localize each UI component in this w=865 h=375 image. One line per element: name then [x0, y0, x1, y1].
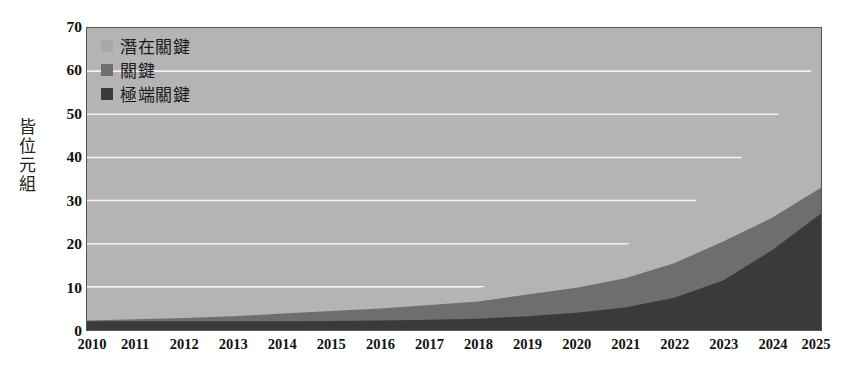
legend-swatch-icon [101, 64, 113, 76]
y-axis-tick-label: 60 [46, 61, 82, 79]
x-axis-tick-label: 2019 [513, 336, 542, 353]
plot-inner [87, 28, 821, 330]
x-axis-tick-label: 2017 [415, 336, 444, 353]
x-axis-tick-label: 2013 [219, 336, 248, 353]
x-axis-tick-label: 2023 [709, 336, 738, 353]
legend-swatch-icon [101, 40, 113, 52]
legend-item[interactable]: 極端關鍵 [101, 82, 190, 105]
legend-item[interactable]: 潛在關鍵 [101, 34, 190, 57]
x-axis-tick-labels: 2010201120122013201420152016201720182019… [86, 336, 822, 362]
y-axis-tick-labels: 706050403020100 [42, 0, 82, 375]
x-axis-tick-label: 2025 [802, 336, 831, 353]
legend-item-label: 極端關鍵 [120, 81, 190, 106]
x-axis-tick-label: 2011 [121, 336, 149, 353]
x-axis-tick-label: 2024 [758, 336, 787, 353]
legend-item-label: 關鍵 [120, 57, 155, 82]
x-axis-tick-label: 2015 [317, 336, 346, 353]
y-axis-tick-label: 70 [46, 18, 82, 36]
y-axis-tick-label: 20 [46, 235, 82, 253]
chart-legend: 潛在關鍵關鍵極端關鍵 [101, 34, 190, 106]
x-axis-tick-label: 2018 [464, 336, 493, 353]
x-axis-tick-label: 2020 [562, 336, 591, 353]
x-axis-tick-label: 2014 [268, 336, 297, 353]
x-axis-tick-label: 2010 [78, 336, 107, 353]
legend-item-label: 潛在關鍵 [120, 33, 190, 58]
x-axis-tick-label: 2012 [170, 336, 199, 353]
x-axis-tick-label: 2021 [611, 336, 640, 353]
area-series-svg [87, 28, 821, 330]
y-axis-title-char: 皆 [12, 118, 42, 137]
y-axis-title-char: 元 [12, 156, 42, 175]
legend-item[interactable]: 關鍵 [101, 58, 190, 81]
y-axis-title-char: 組 [12, 175, 42, 194]
stacked-area-chart: 皆 位 元 組 706050403020100 潛在關鍵關鍵極端關鍵 20102… [0, 0, 865, 375]
x-axis-tick-label: 2016 [366, 336, 395, 353]
y-axis-tick-label: 30 [46, 192, 82, 210]
y-axis-tick-label: 40 [46, 148, 82, 166]
x-axis-tick-label: 2022 [660, 336, 689, 353]
y-axis-title: 皆 位 元 組 [12, 118, 42, 194]
plot-area: 潛在關鍵關鍵極端關鍵 [86, 27, 822, 331]
y-axis-tick-label: 10 [46, 279, 82, 297]
y-axis-title-char: 位 [12, 137, 42, 156]
y-axis-tick-label: 50 [46, 105, 82, 123]
legend-swatch-icon [101, 88, 113, 100]
